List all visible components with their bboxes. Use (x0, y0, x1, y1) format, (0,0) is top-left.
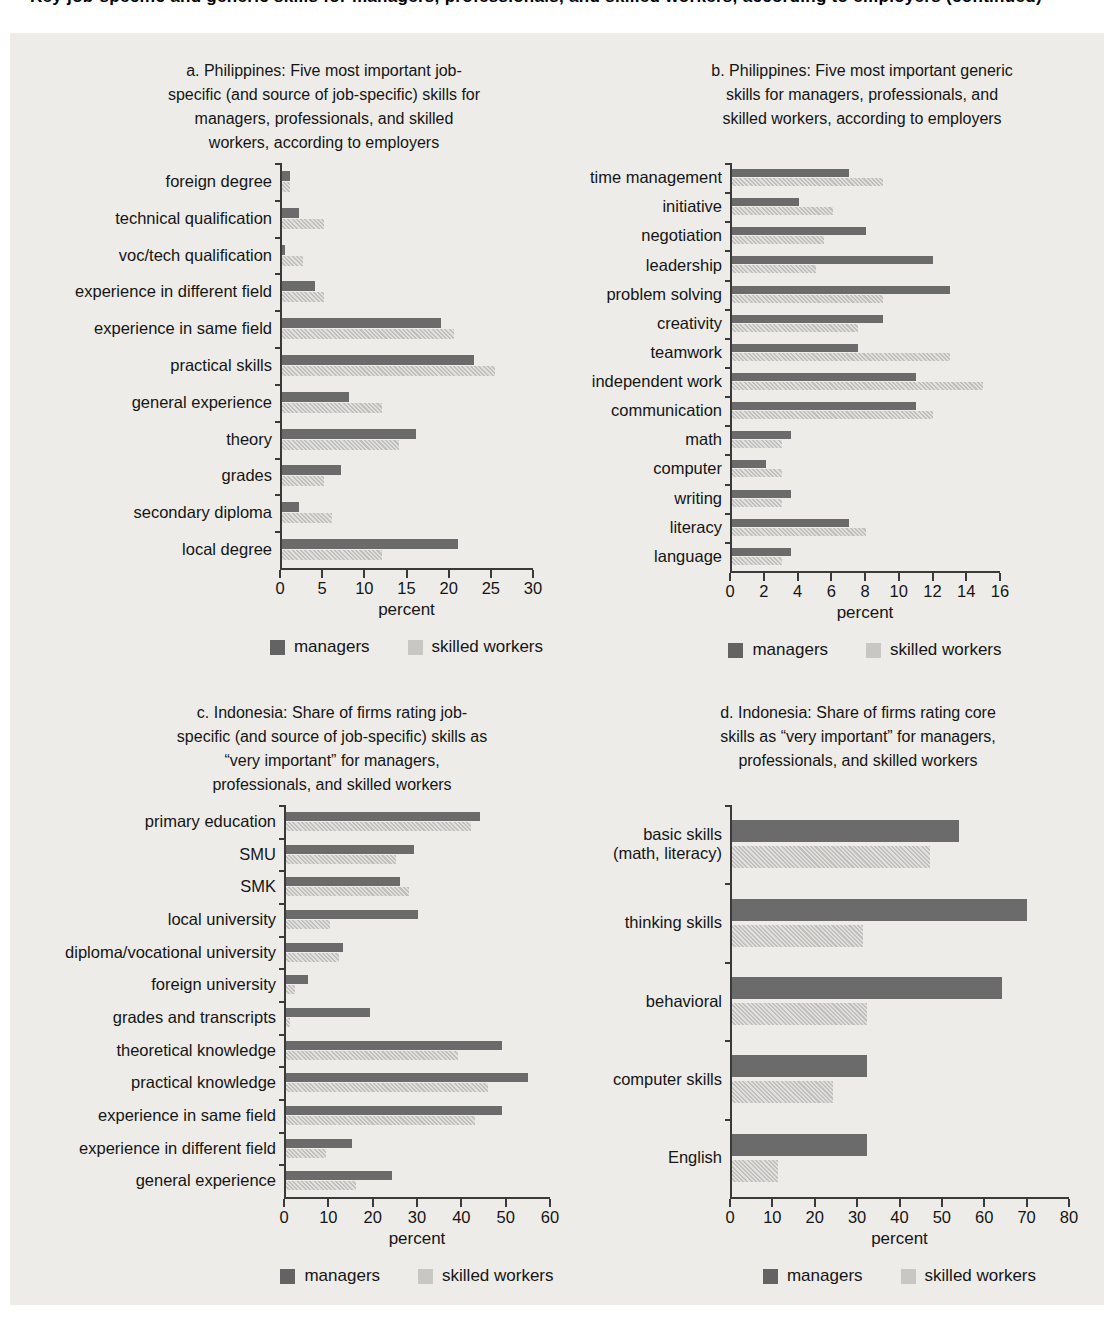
managers-bar (282, 465, 341, 475)
panel-title-line: c. Indonesia: Share of firms rating job- (112, 701, 552, 725)
chart-panel-a: a. Philippines: Five most important job-… (32, 59, 552, 667)
category-row: diploma/vocational university (32, 936, 552, 969)
axis-tick (448, 570, 450, 578)
bar-group (730, 883, 1069, 961)
bar-group (284, 936, 550, 969)
category-label-line: SMU (32, 845, 276, 864)
skilled-swatch-icon (418, 1269, 433, 1284)
axis-tick-label: 15 (397, 579, 415, 598)
managers-bar (732, 1134, 867, 1156)
panel-title-line: workers, according to employers (104, 131, 544, 155)
category-label: diploma/vocational university (32, 936, 284, 969)
category-label: foreign degree (32, 163, 280, 200)
category-label: SMK (32, 870, 284, 903)
axis-tick (1068, 1199, 1070, 1207)
bar-group (730, 962, 1069, 1040)
bar-group (730, 1040, 1069, 1118)
category-label: communication (572, 396, 730, 425)
category-label: grades (32, 458, 280, 495)
category-label-line: communication (572, 401, 722, 420)
category-label-line: voc/tech qualification (32, 246, 272, 265)
managers-bar (732, 373, 916, 381)
axis-tick-label: 2 (759, 582, 768, 601)
category-label: voc/tech qualification (32, 237, 280, 274)
axis-tick (763, 573, 765, 581)
axis-tick-label: 25 (482, 579, 500, 598)
axis-tick-label: 20 (439, 579, 457, 598)
managers-swatch-icon (280, 1269, 295, 1284)
skilled-swatch-icon (408, 640, 423, 655)
axis-tick (999, 573, 1001, 581)
axis-tick-label: 20 (363, 1208, 381, 1227)
managers-bar (732, 820, 959, 842)
category-row: voc/tech qualification (32, 237, 552, 274)
category-label-line: (math, literacy) (572, 844, 722, 863)
category-label-line: English (572, 1148, 722, 1167)
x-axis-line: 01020304050607080 (730, 1197, 1069, 1227)
axis-tick (898, 573, 900, 581)
managers-bar (732, 402, 916, 410)
managers-bar (286, 1008, 370, 1017)
managers-bar (732, 490, 791, 498)
category-row: computer (572, 454, 1092, 483)
axis-tick-label: 30 (524, 579, 542, 598)
skilled-workers-bar (282, 219, 324, 229)
axis-tick (899, 1199, 901, 1207)
bar-group (280, 310, 533, 347)
panel-title-line: b. Philippines: Five most important gene… (642, 59, 1082, 83)
axis-tick (729, 573, 731, 581)
panel-title-line: a. Philippines: Five most important job- (104, 59, 544, 83)
managers-bar (286, 943, 343, 952)
x-axis-spacer (572, 571, 730, 601)
category-label-line: behavioral (572, 992, 722, 1011)
category-label: basic skills(math, literacy) (572, 805, 730, 883)
skilled-workers-bar (286, 1018, 290, 1027)
managers-bar (732, 227, 866, 235)
legend-item-skilled-workers: skilled workers (408, 637, 543, 657)
axis-tick (363, 570, 365, 578)
category-label: foreign university (32, 968, 284, 1001)
category-row: experience in same field (32, 310, 552, 347)
skilled-workers-bar (732, 1081, 833, 1103)
category-label-line: time management (572, 168, 722, 187)
managers-bar (732, 286, 950, 294)
panel-title-line: skills as “very important” for managers, (638, 725, 1078, 749)
category-row: basic skills(math, literacy) (572, 805, 1092, 883)
bar-group (280, 384, 533, 421)
category-row: computer skills (572, 1040, 1092, 1118)
axis-tick-label: 16 (991, 582, 1009, 601)
category-label-line: math (572, 430, 722, 449)
category-row: technical qualification (32, 200, 552, 237)
bar-group (280, 273, 533, 310)
x-axis: 0246810121416 (572, 571, 1092, 601)
category-row: thinking skills (572, 883, 1092, 961)
axis-tick-label: 12 (923, 582, 941, 601)
category-label-line: creativity (572, 314, 722, 333)
bar-group (280, 163, 533, 200)
axis-tick-label: 80 (1060, 1208, 1078, 1227)
bar-group (730, 163, 1000, 192)
bar-group (730, 1119, 1069, 1197)
skilled-workers-bar (286, 1083, 488, 1092)
managers-bar (732, 899, 1027, 921)
skilled-workers-bar (282, 513, 332, 523)
managers-bar (732, 548, 791, 556)
category-label: literacy (572, 513, 730, 542)
skilled-workers-bar (286, 953, 339, 962)
skilled-workers-bar (286, 920, 330, 929)
category-label-line: secondary diploma (32, 503, 272, 522)
chart-panel-d: d. Indonesia: Share of firms rating core… (572, 701, 1092, 1293)
category-label-line: writing (572, 489, 722, 508)
legend-item-managers: managers (728, 640, 828, 660)
skilled-workers-bar (282, 292, 324, 302)
category-label: problem solving (572, 280, 730, 309)
axis-tick (532, 570, 534, 578)
axis-tick (1026, 1199, 1028, 1207)
skilled-workers-bar (286, 985, 295, 994)
managers-bar (732, 519, 849, 527)
category-row: communication (572, 396, 1092, 425)
category-label: practical skills (32, 347, 280, 384)
axis-tick-label: 10 (763, 1208, 781, 1227)
category-label-line: practical skills (32, 356, 272, 375)
charts-grid: a. Philippines: Five most important job-… (10, 33, 1104, 1293)
